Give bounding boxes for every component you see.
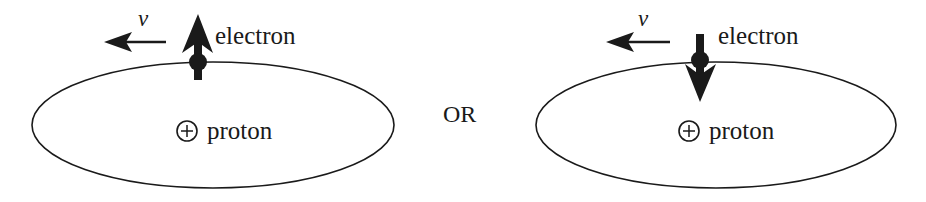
electron-dot (691, 51, 709, 69)
electron-label: electron (215, 22, 296, 49)
electron-dot (189, 53, 207, 71)
proton-plus-icon (679, 121, 699, 141)
velocity-arrow-icon (104, 32, 166, 52)
velocity-arrow-icon (606, 32, 670, 52)
proton-plus-icon (177, 121, 197, 141)
electron-label: electron (718, 22, 799, 49)
velocity-label: v (138, 6, 149, 31)
velocity-label: v (638, 6, 649, 31)
proton-label: proton (207, 117, 273, 144)
or-separator: OR (443, 101, 476, 127)
panel-spin-up: v electron proton (32, 6, 394, 188)
proton-label: proton (709, 117, 775, 144)
panel-spin-down: v electron proton (536, 6, 896, 188)
hydrogen-atom-spin-diagram: v electron proton OR v e (0, 0, 926, 202)
